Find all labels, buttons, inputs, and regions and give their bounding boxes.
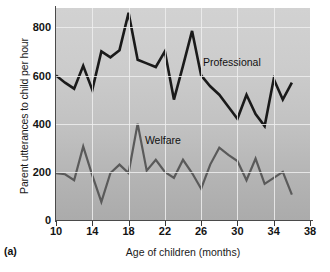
gridline-vertical <box>92 8 93 220</box>
series-label-professional: Professional <box>203 56 261 68</box>
x-tick-label: 30 <box>224 225 250 237</box>
x-tick-mark <box>92 221 93 226</box>
y-tick-label: 200 <box>21 167 51 177</box>
gridline-vertical <box>274 8 275 220</box>
x-tick-label: 14 <box>79 225 105 237</box>
gridline-vertical <box>165 8 166 220</box>
chart-figure: Parent utterances to child per hour 0200… <box>0 0 330 272</box>
series-lines <box>56 8 310 220</box>
gridline-vertical <box>237 8 238 220</box>
panel-tag: (a) <box>4 245 17 257</box>
gridline-vertical <box>129 8 130 220</box>
gridline-horizontal <box>56 27 310 28</box>
y-tick-label: 400 <box>21 119 51 129</box>
x-axis-title: Age of children (months) <box>56 246 310 258</box>
x-tick-mark <box>56 221 57 226</box>
plot-area: Professional Welfare <box>56 8 310 220</box>
gridline-horizontal <box>56 76 310 77</box>
x-tick-label: 10 <box>43 225 69 237</box>
x-tick-label: 26 <box>188 225 214 237</box>
x-tick-label: 34 <box>261 225 287 237</box>
series-label-welfare: Welfare <box>145 134 181 146</box>
y-tick-label: 600 <box>21 71 51 81</box>
y-tick-label: 0 <box>21 215 51 225</box>
gridline-vertical <box>201 8 202 220</box>
x-tick-mark <box>274 221 275 226</box>
x-tick-mark <box>129 221 130 226</box>
gridline-horizontal <box>56 172 310 173</box>
x-tick-label: 18 <box>116 225 142 237</box>
x-tick-mark <box>201 221 202 226</box>
x-tick-mark <box>165 221 166 226</box>
x-tick-label: 22 <box>152 225 178 237</box>
y-tick-label: 800 <box>21 22 51 32</box>
x-tick-label: 38 <box>297 225 323 237</box>
x-tick-mark <box>237 221 238 226</box>
x-tick-mark <box>310 221 311 226</box>
gridline-horizontal <box>56 124 310 125</box>
